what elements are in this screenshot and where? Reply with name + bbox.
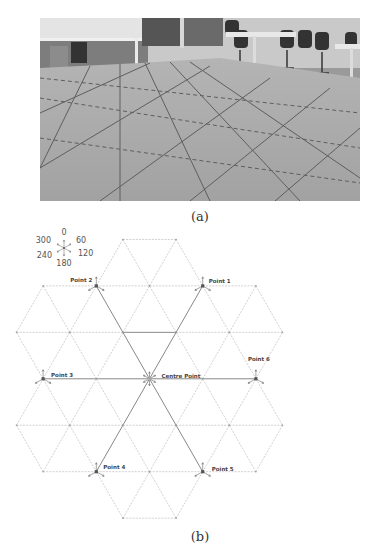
grid-line (203, 332, 230, 378)
grid-line (203, 286, 230, 332)
path-line (123, 379, 150, 425)
vertex-dot (255, 285, 257, 287)
point-square-icon (42, 377, 45, 380)
vertex-dot (175, 332, 177, 334)
vertex-dot (175, 517, 177, 519)
path-line (176, 425, 203, 471)
vertex-dot (229, 332, 231, 334)
compass-label-300: 300 (36, 236, 51, 245)
grid-line (150, 286, 177, 332)
grid-line (17, 286, 44, 332)
grid-line (150, 239, 177, 285)
point-3-marker: Point 3 (35, 370, 73, 384)
compass-label-120: 120 (78, 249, 93, 258)
grid-line (43, 425, 70, 471)
point-2-label: Point 2 (70, 277, 92, 283)
vertex-dot (149, 285, 151, 287)
grid-line (256, 425, 283, 471)
grid-line (70, 425, 97, 471)
vertex-dot (42, 471, 44, 473)
grid-line (123, 425, 150, 471)
point-1-label: Point 1 (209, 278, 231, 284)
vertex-dot (122, 424, 124, 426)
vertex-dot (122, 239, 124, 241)
grid-line (123, 239, 150, 285)
floor-grid-photo (40, 18, 360, 201)
caption-b: (b) (170, 529, 230, 544)
compass-label-60: 60 (76, 236, 86, 245)
compass-rose-icon: 060120180240300 (36, 228, 94, 268)
vertex-dot (69, 332, 71, 334)
point-square-icon (201, 284, 204, 287)
vertex-dot (122, 517, 124, 519)
grid-line (176, 472, 203, 518)
grid-line (150, 425, 177, 471)
point-4-label: Point 4 (103, 464, 125, 470)
point-5-label: Point 5 (212, 466, 234, 472)
path-line (150, 379, 177, 425)
point-5-marker: Point 5 (195, 463, 234, 477)
vertex-dot (16, 424, 18, 426)
vertex-dot (42, 285, 44, 287)
grid-line (43, 379, 70, 425)
grid-line (229, 379, 256, 425)
photo-illustration (40, 18, 360, 201)
grid-line (96, 332, 123, 378)
vertex-dot (202, 378, 204, 380)
point-4-marker: Point 4 (89, 463, 126, 477)
path-line (123, 332, 150, 378)
centre-point-label: Centre Point (162, 373, 201, 379)
vertex-dot (175, 239, 177, 241)
vertex-dot (96, 378, 98, 380)
grid-line (17, 379, 44, 425)
grid-line (123, 286, 150, 332)
compass-label-240: 240 (37, 251, 52, 260)
grid-line (96, 472, 123, 518)
vertex-dot (16, 332, 18, 334)
point-1-marker: Point 1 (195, 277, 231, 291)
vertex-dot (175, 424, 177, 426)
grid-line (123, 472, 150, 518)
vertex-dot (282, 424, 284, 426)
point-square-icon (201, 470, 204, 473)
vertex-dot (149, 471, 151, 473)
vertex-dot (255, 471, 257, 473)
grid-line (176, 239, 203, 285)
grid-line (96, 379, 123, 425)
compass-label-180: 180 (56, 259, 71, 268)
grid-line (256, 286, 283, 332)
grid-line (150, 472, 177, 518)
grid-line (96, 239, 123, 285)
grid-line (43, 286, 70, 332)
path-line (96, 286, 123, 332)
grid-line (70, 379, 97, 425)
point-square-icon (95, 470, 98, 473)
point-square-icon (148, 377, 151, 380)
vertex-dot (122, 332, 124, 334)
grid-line (229, 286, 256, 332)
grid-line (203, 379, 230, 425)
point-square-icon (254, 377, 257, 380)
grid-line (70, 286, 97, 332)
grid-line (70, 332, 97, 378)
grid-svg: Point 1Point 2Point 3Centre PointPoint 4… (0, 222, 375, 532)
grid-line (17, 425, 44, 471)
vertex-dot (69, 424, 71, 426)
grid-line (176, 379, 203, 425)
vertex-dot (282, 332, 284, 334)
grid-line (17, 332, 44, 378)
triangular-grid-diagram: Point 1Point 2Point 3Centre PointPoint 4… (0, 222, 375, 532)
grid-line (256, 379, 283, 425)
path-line (176, 286, 203, 332)
compass-label-0: 0 (61, 228, 66, 237)
point-square-icon (95, 284, 98, 287)
vertex-dot (229, 424, 231, 426)
point-3-label: Point 3 (51, 372, 73, 378)
point-2-marker: Point 2 (70, 277, 104, 291)
point-6-label: Point 6 (248, 356, 270, 362)
